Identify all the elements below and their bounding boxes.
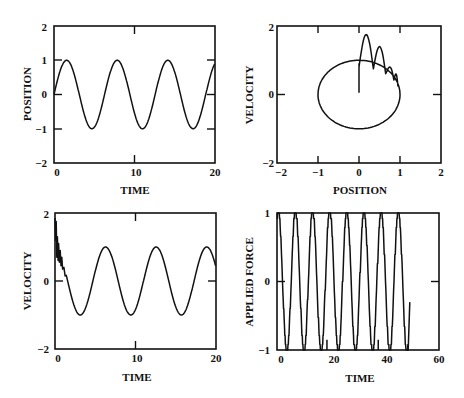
x-tick-label: 10 bbox=[131, 166, 143, 178]
y-ticks bbox=[54, 26, 215, 163]
y-tick-label: 2 bbox=[44, 208, 50, 220]
plot-frame bbox=[54, 26, 215, 163]
x-tick-label: 20 bbox=[211, 352, 223, 364]
y-tick-label: −2 bbox=[262, 157, 274, 169]
x-tick-label: 0 bbox=[278, 353, 284, 365]
plot-frame bbox=[277, 26, 441, 163]
x-tick-label: 20 bbox=[210, 166, 222, 178]
y-tick-label: 0 bbox=[269, 88, 275, 100]
plot-velocity-vs-position: 2 0 −2 −2 −1 0 1 2 POSITION VELOCITY bbox=[243, 21, 444, 196]
y-tick-label: 0 bbox=[42, 88, 48, 100]
x-tick-label: 2 bbox=[438, 166, 444, 178]
plot-position-vs-time: 2 1 0 −1 −2 0 10 20 TIME POSITION bbox=[21, 21, 221, 196]
y-axis-label: APPLIED FORCE bbox=[243, 237, 255, 327]
x-tick-label: 40 bbox=[382, 353, 394, 365]
x-tick-label: −1 bbox=[312, 166, 324, 178]
y-tick-label: 2 bbox=[42, 21, 48, 33]
y-axis-label: POSITION bbox=[21, 67, 33, 121]
y-tick-label: −2 bbox=[37, 343, 49, 355]
y-tick-label: 0 bbox=[44, 275, 50, 287]
phase-trajectory-curve bbox=[318, 35, 400, 129]
x-tick-label: 0 bbox=[55, 352, 61, 364]
x-tick-label: 60 bbox=[434, 353, 446, 365]
x-tick-label: −2 bbox=[275, 166, 287, 178]
x-tick-label: 0 bbox=[54, 166, 60, 178]
x-axis-label: TIME bbox=[120, 184, 149, 196]
x-tick-label: 0 bbox=[356, 166, 362, 178]
y-axis-label: VELOCITY bbox=[21, 252, 33, 311]
ticks bbox=[55, 213, 216, 349]
position-curve bbox=[54, 60, 215, 128]
velocity-curve bbox=[55, 218, 216, 315]
x-axis-label: TIME bbox=[345, 372, 374, 384]
ticks bbox=[277, 26, 441, 163]
y-tick-label: 2 bbox=[269, 21, 275, 33]
plot-applied-force-vs-time: 1 0 −1 0 20 40 60 TIME APPLIED FORCE bbox=[243, 207, 445, 384]
x-tick-label: 1 bbox=[397, 166, 403, 178]
x-tick-label: 20 bbox=[329, 353, 341, 365]
y-axis-label: VELOCITY bbox=[243, 66, 255, 125]
applied-force-curve bbox=[277, 213, 410, 350]
figure-canvas: 2 1 0 −1 −2 0 10 20 TIME POSITION 2 0 −2… bbox=[0, 0, 464, 398]
x-tick-label: 10 bbox=[132, 352, 144, 364]
plot-velocity-vs-time: 2 0 −2 0 10 20 TIME VELOCITY bbox=[21, 208, 222, 383]
y-tick-label: −1 bbox=[35, 123, 47, 135]
y-tick-label: 1 bbox=[42, 54, 48, 66]
x-axis-label: TIME bbox=[122, 371, 151, 383]
y-tick-label: 1 bbox=[265, 207, 271, 219]
x-axis-label: POSITION bbox=[333, 184, 387, 196]
y-tick-label: 0 bbox=[265, 275, 271, 287]
plot-frame bbox=[55, 213, 216, 349]
y-tick-label: −1 bbox=[258, 344, 270, 356]
y-tick-label: −2 bbox=[35, 157, 47, 169]
